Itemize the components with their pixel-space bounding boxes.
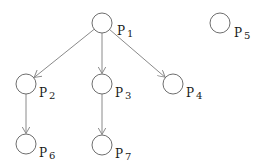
- node-label-index: 5: [244, 30, 250, 41]
- node-label-letter: P: [117, 24, 125, 38]
- node-label-index: 3: [125, 90, 131, 101]
- node-p4-label: P4: [186, 87, 202, 99]
- node-p5-circle: [210, 13, 230, 33]
- node-p3-label: P3: [115, 87, 131, 99]
- node-label-letter: P: [39, 146, 47, 160]
- node-p1-label: P1: [117, 25, 133, 37]
- node-p6-circle: [16, 134, 36, 154]
- node-p3-circle: [92, 74, 112, 94]
- node-p5-label: P5: [234, 27, 250, 39]
- node-label-letter: P: [115, 147, 123, 161]
- node-p1-circle: [92, 13, 112, 33]
- node-label-letter: P: [115, 86, 123, 100]
- node-label-index: 6: [49, 150, 55, 161]
- node-label-index: 1: [127, 28, 133, 39]
- node-p7-circle: [92, 135, 112, 155]
- node-label-index: 7: [125, 151, 131, 162]
- node-label-index: 2: [49, 90, 55, 101]
- node-p7-label: P7: [115, 148, 131, 160]
- node-p6-label: P6: [39, 147, 55, 159]
- node-p2-label: P2: [39, 87, 55, 99]
- node-label-letter: P: [186, 86, 194, 100]
- node-p2-circle: [16, 74, 36, 94]
- node-p4-circle: [163, 74, 183, 94]
- node-label-index: 4: [196, 90, 202, 101]
- process-graph: P1P2P3P4P5P6P7: [0, 0, 263, 167]
- node-label-letter: P: [234, 26, 242, 40]
- edge-p1-to-p2-arrow: [34, 29, 94, 77]
- node-label-letter: P: [39, 86, 47, 100]
